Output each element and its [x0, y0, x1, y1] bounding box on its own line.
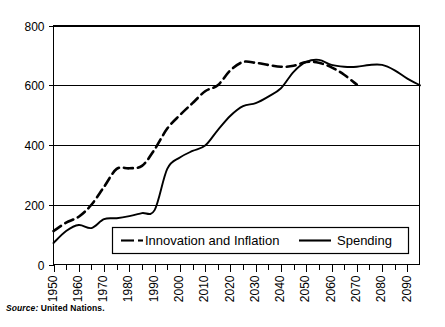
x-tick-label-2010: 2010 — [197, 275, 211, 302]
x-tick-label-group-1990: 1990 — [147, 275, 161, 302]
x-axis-ticks — [55, 265, 408, 272]
x-tick-label-2040: 2040 — [273, 275, 287, 302]
x-tick-label-group-2080: 2080 — [374, 275, 388, 302]
legend-label-innovation-and-inflation: Innovation and Inflation — [145, 233, 279, 248]
x-tick-label-group-2000: 2000 — [172, 275, 186, 302]
x-tick-label-2070: 2070 — [349, 275, 363, 302]
legend-label-spending: Spending — [337, 233, 392, 248]
x-tick-label-group-2040: 2040 — [273, 275, 287, 302]
source-text: United Nations. — [41, 303, 105, 313]
y-tick-label-200: 200 — [24, 199, 44, 213]
x-tick-label-2090: 2090 — [400, 275, 414, 302]
y-tick-label-600: 600 — [24, 79, 44, 93]
y-tick-label-0: 0 — [38, 259, 45, 273]
x-tick-label-group-1950: 1950 — [46, 275, 60, 302]
x-tick-label-2080: 2080 — [374, 275, 388, 302]
x-tick-label-2050: 2050 — [298, 275, 312, 302]
x-tick-label-group-1980: 1980 — [121, 275, 135, 302]
x-tick-label-2000: 2000 — [172, 275, 186, 302]
x-tick-label-2060: 2060 — [324, 275, 338, 302]
x-tick-label-1990: 1990 — [147, 275, 161, 302]
x-tick-label-1980: 1980 — [121, 275, 135, 302]
line-chart: 0200400600800 19501960197019801990200020… — [0, 0, 445, 327]
x-tick-label-group-2090: 2090 — [400, 275, 414, 302]
x-tick-label-group-2020: 2020 — [223, 275, 237, 302]
x-axis-labels: 1950196019701980199020002010202020302040… — [46, 275, 414, 302]
x-tick-label-2030: 2030 — [248, 275, 262, 302]
x-tick-label-group-2060: 2060 — [324, 275, 338, 302]
source-note: Source: United Nations. — [6, 303, 105, 313]
x-tick-label-group-1970: 1970 — [96, 275, 110, 302]
x-tick-label-2020: 2020 — [223, 275, 237, 302]
chart-legend: Innovation and Inflation Spending — [113, 228, 409, 254]
chart-figure: 0200400600800 19501960197019801990200020… — [0, 0, 445, 327]
x-tick-label-1950: 1950 — [46, 275, 60, 302]
x-tick-label-group-2070: 2070 — [349, 275, 363, 302]
y-axis: 0200400600800 — [24, 20, 53, 273]
source-label: Source: — [6, 303, 38, 313]
x-tick-label-group-2030: 2030 — [248, 275, 262, 302]
x-tick-label-group-1960: 1960 — [71, 275, 85, 302]
y-tick-label-400: 400 — [24, 139, 44, 153]
y-tick-label-800: 800 — [24, 20, 44, 34]
x-tick-label-group-2050: 2050 — [298, 275, 312, 302]
x-tick-label-1970: 1970 — [96, 275, 110, 302]
x-tick-label-group-2010: 2010 — [197, 275, 211, 302]
x-tick-label-1960: 1960 — [71, 275, 85, 302]
